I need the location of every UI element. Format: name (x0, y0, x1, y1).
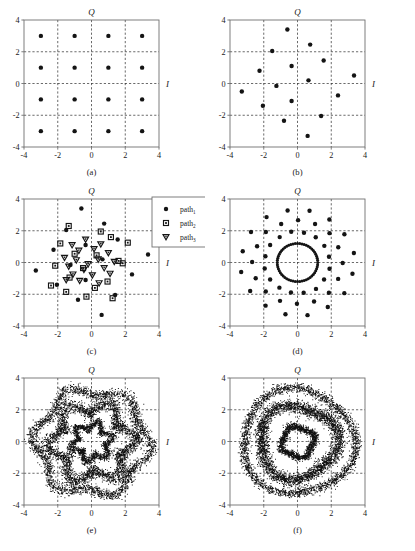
data-point-path2 (53, 263, 58, 268)
x-tick-label: -2 (54, 509, 61, 518)
data-point-path2 (72, 251, 77, 256)
data-point (306, 78, 310, 82)
y-tick-label: 4 (15, 16, 19, 25)
y-tick-label: -4 (219, 143, 226, 152)
data-point (289, 99, 293, 103)
legend: path1path2path3 (152, 197, 205, 247)
plot-c: -4-4-2-2002244QI(c)path1path2path3 (0, 179, 205, 358)
data-point (106, 65, 110, 69)
ring-point (336, 277, 340, 281)
y-tick-label: -4 (219, 322, 226, 331)
ring-point (305, 313, 309, 317)
i-axis-label: I (165, 258, 170, 268)
ring-point (241, 249, 245, 253)
plot-a: -4-4-2-2002244QI(a) (0, 0, 205, 179)
x-tick-label: 0 (295, 330, 299, 339)
data-point-path2 (66, 223, 71, 228)
ring-point (327, 291, 331, 295)
data-point-path2 (64, 289, 69, 294)
ring-point (285, 208, 289, 212)
data-point (336, 93, 340, 97)
data-point (274, 84, 278, 88)
ring-point (255, 244, 259, 248)
data-point (140, 34, 144, 38)
ring-point (249, 230, 253, 234)
ring-point (301, 291, 305, 295)
x-tick-label: -4 (227, 509, 234, 518)
ring-point (313, 222, 317, 226)
data-point-path3 (77, 278, 83, 283)
data-point-path2 (92, 285, 97, 290)
ring-point (327, 266, 331, 270)
plot-e: -4-4-2-2002244QI(e) (0, 358, 205, 537)
scatter-cloud (24, 381, 159, 500)
ring-point (327, 217, 331, 221)
i-axis-label: I (165, 79, 170, 89)
y-tick-label: 4 (15, 374, 19, 383)
ring-point (314, 287, 318, 291)
q-axis-label: Q (88, 365, 95, 375)
x-tick-label: 0 (295, 509, 299, 518)
data-point (308, 42, 312, 46)
x-tick-label: 4 (363, 151, 367, 160)
y-tick-label: 4 (221, 374, 225, 383)
y-tick-label: -2 (13, 290, 20, 299)
x-tick-label: 2 (123, 151, 127, 160)
data-point (240, 89, 244, 93)
x-tick-label: 4 (157, 330, 161, 339)
y-tick-label: 0 (221, 259, 225, 268)
data-point-path1 (79, 206, 83, 210)
data-point-path3 (73, 258, 79, 263)
ring-point (268, 277, 272, 281)
y-tick-label: 4 (221, 195, 225, 204)
legend-box (152, 197, 205, 247)
plot-f: -4-4-2-2002244QI(f) (206, 358, 411, 537)
data-point-path3 (62, 255, 68, 260)
panel-a: -4-4-2-2002244QI(a) (0, 0, 205, 179)
data-point (305, 134, 309, 138)
y-tick-label: -2 (13, 111, 20, 120)
data-point (257, 69, 261, 73)
ring-point (340, 261, 344, 265)
data-point (72, 65, 76, 69)
ring-point (327, 231, 331, 235)
y-tick-label: 2 (15, 227, 19, 236)
x-tick-label: -2 (260, 151, 267, 160)
x-tick-label: -4 (21, 509, 28, 518)
ring-point (352, 251, 356, 255)
data-point-path3 (105, 251, 111, 256)
data-point-path3 (83, 237, 89, 242)
x-tick-label: 2 (123, 330, 127, 339)
panel-d: -4-4-2-2002244QI(d) (206, 179, 411, 358)
data-point (352, 73, 356, 77)
ring-point (279, 222, 283, 226)
data-point (140, 129, 144, 133)
x-tick-label: 2 (123, 509, 127, 518)
data-point-path1 (99, 313, 103, 317)
x-tick-label: 2 (329, 509, 333, 518)
ring-point (289, 290, 293, 294)
panel-e: -4-4-2-2002244QI(e) (0, 358, 205, 537)
x-tick-label: -4 (21, 151, 28, 160)
data-point-path1 (130, 272, 134, 276)
ring-point (322, 277, 326, 281)
y-tick-label: -4 (13, 501, 20, 510)
scatter-cloud (238, 383, 362, 499)
ring-point (248, 289, 252, 293)
x-tick-label: 4 (363, 509, 367, 518)
cloud-band (272, 421, 320, 462)
data-point-path1 (102, 221, 106, 225)
ring-point (277, 285, 281, 289)
data-point-path3 (70, 272, 76, 277)
ring-point (312, 299, 316, 303)
x-tick-label: 0 (89, 330, 93, 339)
x-tick-label: 0 (89, 509, 93, 518)
data-point (39, 129, 43, 133)
ring-point (350, 272, 354, 276)
data-point-path1 (51, 248, 55, 252)
x-tick-label: 0 (89, 151, 93, 160)
ring-point (307, 209, 311, 213)
data-point-path3 (107, 271, 113, 276)
ring-point (302, 231, 306, 235)
panel-caption: (e) (87, 525, 97, 535)
